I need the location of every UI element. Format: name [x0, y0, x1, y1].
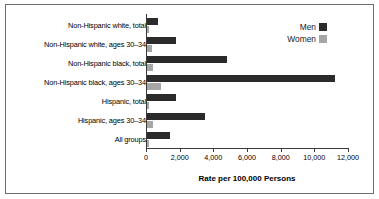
x-tick-label: 2,000 [171, 153, 189, 162]
x-tick-label: 12,000 [337, 153, 359, 162]
legend-item-women: Women [232, 29, 327, 41]
plot-area: Non-Hispanic white, totalNon-Hispanic wh… [0, 0, 379, 199]
x-tick [314, 148, 315, 152]
x-tick-label: 8,000 [272, 153, 290, 162]
x-axis-title: Rate per 100,000 Persons [146, 174, 348, 183]
bar-men [146, 75, 335, 82]
x-tick-label: 6,000 [238, 153, 256, 162]
category-label: All groups [0, 130, 146, 149]
x-tick [146, 148, 147, 152]
x-tick [180, 148, 181, 152]
category-label: Non-Hispanic white, total [0, 16, 146, 35]
bar-row: Non-Hispanic black, total [0, 54, 379, 73]
category-label: Non-Hispanic black, ages 30–34 [0, 73, 146, 92]
x-tick-label: 4,000 [204, 153, 222, 162]
category-label: Hispanic, ages 30–34 [0, 111, 146, 130]
x-tick [213, 148, 214, 152]
bar-row: Hispanic, total [0, 92, 379, 111]
bar-row: Non-Hispanic black, ages 30–34 [0, 73, 379, 92]
bar-row: All groups [0, 130, 379, 149]
legend-swatch-women [319, 35, 327, 43]
x-tick-label: 0 [144, 153, 148, 162]
chart-legend: Men Women [232, 17, 327, 41]
chart-figure: Non-Hispanic white, totalNon-Hispanic wh… [0, 0, 379, 199]
legend-label-women: Women [287, 34, 316, 44]
bar-men [146, 18, 158, 25]
bar-row: Hispanic, ages 30–34 [0, 111, 379, 130]
category-label: Non-Hispanic black, total [0, 54, 146, 73]
category-label: Hispanic, total [0, 92, 146, 111]
category-label: Non-Hispanic white, ages 30–34 [0, 35, 146, 54]
x-tick [247, 148, 248, 152]
bar-men [146, 113, 205, 120]
legend-item-men: Men [232, 17, 327, 29]
x-tick [281, 148, 282, 152]
bar-men [146, 37, 176, 44]
y-axis-line [146, 14, 147, 148]
bar-men [146, 132, 170, 139]
x-tick-label: 10,000 [303, 153, 325, 162]
x-tick [348, 148, 349, 152]
bar-men [146, 56, 227, 63]
bar-women [146, 83, 161, 90]
bar-men [146, 94, 176, 101]
